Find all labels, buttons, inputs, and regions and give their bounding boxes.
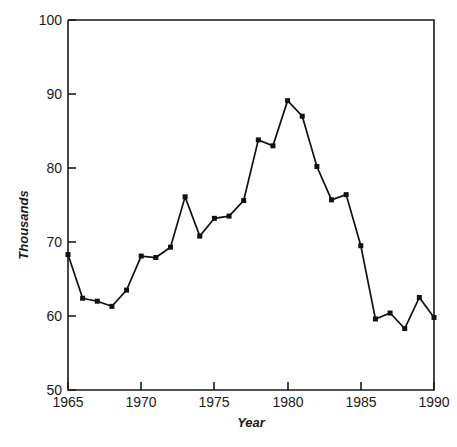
y-tick-label-60: 60 xyxy=(46,308,62,324)
data-point xyxy=(109,304,114,309)
data-point xyxy=(227,214,232,219)
data-point xyxy=(344,192,349,197)
data-point xyxy=(270,143,275,148)
data-point xyxy=(329,197,334,202)
data-point xyxy=(95,299,100,304)
data-point xyxy=(66,252,71,257)
y-axis-title: Thousands xyxy=(16,190,31,259)
data-point xyxy=(168,245,173,250)
data-point xyxy=(388,311,393,316)
x-axis-title: Year xyxy=(237,415,266,430)
figure-caption xyxy=(0,431,457,447)
data-point xyxy=(124,288,129,293)
data-point xyxy=(432,315,437,320)
x-tick-label-1970: 1970 xyxy=(125,394,156,410)
data-point xyxy=(256,137,261,142)
x-tick-label-1965: 1965 xyxy=(52,394,83,410)
x-tick-label-1980: 1980 xyxy=(272,394,303,410)
data-point xyxy=(402,326,407,331)
data-point xyxy=(197,234,202,239)
y-tick-label-70: 70 xyxy=(46,234,62,250)
data-point xyxy=(417,295,422,300)
data-point xyxy=(358,243,363,248)
y-tick-label-100: 100 xyxy=(39,12,63,28)
x-tick-label-1975: 1975 xyxy=(198,394,229,410)
data-point xyxy=(373,316,378,321)
data-point xyxy=(285,98,290,103)
y-tick-label-90: 90 xyxy=(46,86,62,102)
data-point xyxy=(314,164,319,169)
data-point xyxy=(212,216,217,221)
data-point xyxy=(183,194,188,199)
y-tick-label-80: 80 xyxy=(46,160,62,176)
x-tick-label-1990: 1990 xyxy=(418,394,449,410)
x-tick-label-1985: 1985 xyxy=(345,394,376,410)
data-point xyxy=(300,114,305,119)
line-chart: 100 90 80 70 60 50 1965 1970 1975 1980 1… xyxy=(0,0,457,447)
data-point xyxy=(139,254,144,259)
data-point xyxy=(80,296,85,301)
data-point xyxy=(153,255,158,260)
data-point xyxy=(241,198,246,203)
